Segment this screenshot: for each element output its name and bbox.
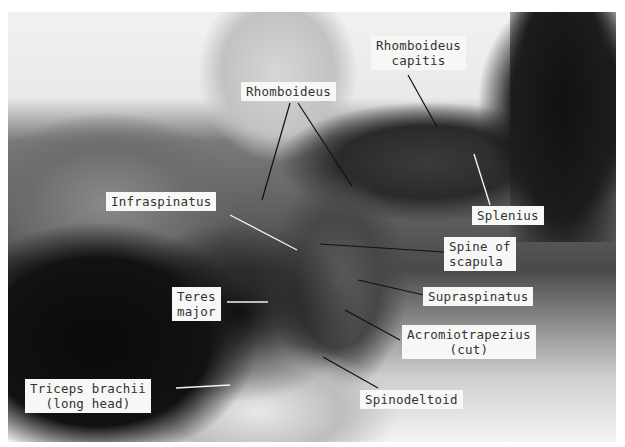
label-teres-major: Teres major (172, 287, 221, 321)
label-rhomboideus-capitis: Rhomboideus capitis (371, 36, 466, 70)
label-spinodeltoid: Spinodeltoid (360, 390, 463, 409)
label-acromiotrapezius: Acromiotrapezius (cut) (402, 325, 536, 359)
label-triceps-brachii: Triceps brachii (long head) (25, 379, 151, 413)
label-spine-of-scapula: Spine of scapula (444, 237, 516, 271)
label-rhomboideus: Rhomboideus (241, 82, 336, 101)
label-infraspinatus: Infraspinatus (106, 192, 216, 211)
label-splenius: Splenius (472, 206, 544, 225)
label-supraspinatus: Supraspinatus (423, 287, 533, 306)
